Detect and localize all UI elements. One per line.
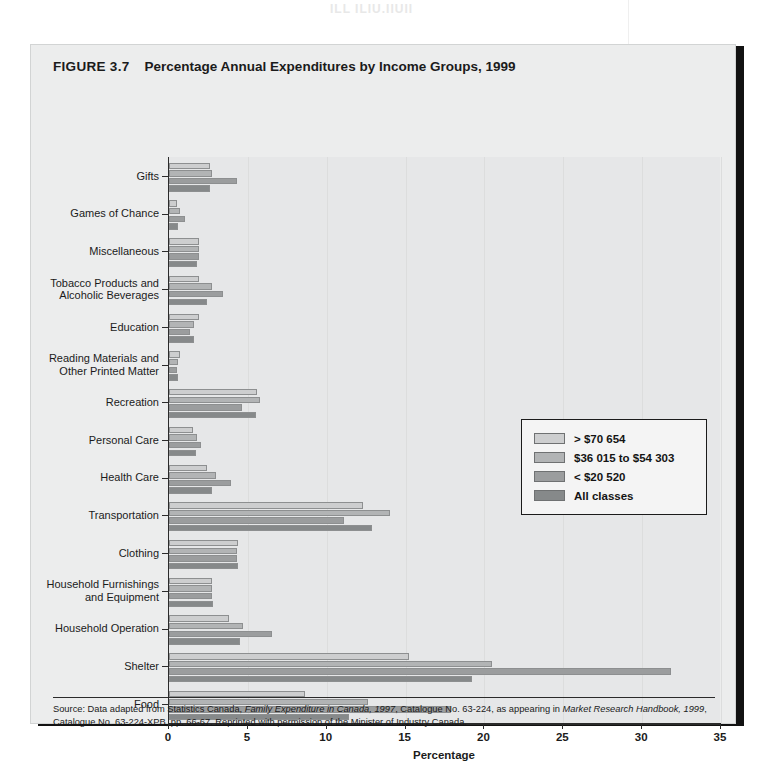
bar-group: Household Furnishingsand Equipment xyxy=(31,572,737,610)
source-prefix: Source: Data adapted from Statistics Can… xyxy=(53,704,245,714)
y-tick xyxy=(162,327,168,328)
source-divider xyxy=(53,697,715,698)
category-label-line: Games of Chance xyxy=(70,207,159,220)
bar xyxy=(169,487,212,493)
bar-group: Miscellaneous xyxy=(31,232,737,270)
x-tick-label: 15 xyxy=(398,731,411,743)
category-label-line: Shelter xyxy=(124,660,159,673)
bar-group: Clothing xyxy=(31,534,737,572)
legend-swatch xyxy=(534,433,565,444)
y-tick xyxy=(162,214,168,215)
bar xyxy=(169,593,212,599)
y-tick xyxy=(162,402,168,403)
bar xyxy=(169,178,237,184)
category-label: Household Furnishingsand Equipment xyxy=(46,578,159,603)
bar xyxy=(169,216,185,222)
bar xyxy=(169,540,238,546)
category-label-line: Tobacco Products and xyxy=(50,277,159,290)
figure-title: Percentage Annual Expenditures by Income… xyxy=(145,59,516,74)
category-label: Recreation xyxy=(106,396,159,409)
figure-number: FIGURE 3.7 xyxy=(53,59,130,74)
bar xyxy=(169,359,178,365)
bar xyxy=(169,615,229,621)
category-label: Transportation xyxy=(88,509,159,522)
bar xyxy=(169,261,197,267)
bar xyxy=(169,314,199,320)
legend-item[interactable]: $36 015 to $54 303 xyxy=(534,448,696,467)
bar xyxy=(169,502,363,508)
x-tick-label: 35 xyxy=(714,731,727,743)
category-label-line: Other Printed Matter xyxy=(49,365,159,378)
bar xyxy=(169,412,256,418)
y-tick xyxy=(162,440,168,441)
bar xyxy=(169,329,190,335)
bar xyxy=(169,676,472,682)
category-label-line: Personal Care xyxy=(89,434,159,447)
bar xyxy=(169,563,238,569)
bar xyxy=(169,623,243,629)
source-middle: , Catalogue No. 63-224, as appearing in xyxy=(395,704,562,714)
bar xyxy=(169,434,197,440)
legend-item[interactable]: < $20 520 xyxy=(534,467,696,486)
bar xyxy=(169,601,213,607)
legend-label: $36 015 to $54 303 xyxy=(574,452,674,464)
x-tick-label: 25 xyxy=(556,731,569,743)
bar xyxy=(169,653,409,659)
category-label-line: Clothing xyxy=(119,547,159,560)
y-tick xyxy=(162,553,168,554)
x-axis-title: Percentage xyxy=(168,749,720,761)
bar xyxy=(169,223,178,229)
bar xyxy=(169,472,216,478)
bar xyxy=(169,638,240,644)
bar xyxy=(169,163,210,169)
x-tick-label: 0 xyxy=(165,731,171,743)
category-label-line: Transportation xyxy=(88,509,159,522)
bar-group: Education xyxy=(31,308,737,346)
page-bleed-top: ILL ILIU.IIUII xyxy=(330,2,413,16)
category-label: Education xyxy=(110,321,159,334)
bar xyxy=(169,397,260,403)
legend-label: > $70 654 xyxy=(574,433,625,445)
legend-item[interactable]: All classes xyxy=(534,486,696,505)
bar xyxy=(169,185,210,191)
category-label: Health Care xyxy=(100,471,159,484)
category-label-line: Health Care xyxy=(100,471,159,484)
bar xyxy=(169,404,242,410)
y-tick xyxy=(162,478,168,479)
bar xyxy=(169,555,237,561)
bar xyxy=(169,631,272,637)
bar xyxy=(169,668,671,674)
y-tick xyxy=(162,251,168,252)
y-tick xyxy=(162,515,168,516)
bar xyxy=(169,283,212,289)
bar-group: Recreation xyxy=(31,383,737,421)
figure-caption: FIGURE 3.7 Percentage Annual Expenditure… xyxy=(53,59,515,74)
category-label: Shelter xyxy=(124,660,159,673)
y-tick xyxy=(162,591,168,592)
category-label: Reading Materials andOther Printed Matte… xyxy=(49,352,159,377)
x-tick-label: 10 xyxy=(319,731,332,743)
category-label-line: Household Furnishings xyxy=(46,578,159,591)
bar xyxy=(169,525,372,531)
category-label: Gifts xyxy=(136,170,159,183)
category-label: Games of Chance xyxy=(70,207,159,220)
category-label: Clothing xyxy=(119,547,159,560)
bar xyxy=(169,480,231,486)
bar-group: Shelter xyxy=(31,648,737,686)
chart-legend: > $70 654$36 015 to $54 303< $20 520All … xyxy=(521,419,707,515)
chart-plot-wrapper: 05101520253035 GiftsGames of ChanceMisce… xyxy=(31,113,737,691)
bar xyxy=(169,510,390,516)
category-label-line: Recreation xyxy=(106,396,159,409)
bar xyxy=(169,253,199,259)
legend-swatch xyxy=(534,490,565,501)
source-italic-2: Market Research Handbook, 1999 xyxy=(563,704,705,714)
bar xyxy=(169,517,344,523)
y-tick xyxy=(162,289,168,290)
bar xyxy=(169,208,180,214)
bar-group: Games of Chance xyxy=(31,195,737,233)
bar xyxy=(169,321,194,327)
category-label-line: Reading Materials and xyxy=(49,352,159,365)
legend-item[interactable]: > $70 654 xyxy=(534,429,696,448)
bar-group: Tobacco Products andAlcoholic Beverages xyxy=(31,270,737,308)
category-label-line: Alcoholic Beverages xyxy=(50,289,159,302)
